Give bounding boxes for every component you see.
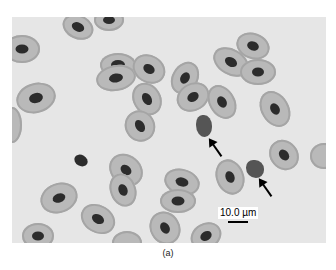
red-blood-cell: [94, 17, 124, 31]
red-blood-cell: [112, 231, 142, 243]
micrograph: 10.0 µm: [12, 17, 326, 243]
red-blood-cell: [22, 223, 54, 243]
red-blood-cell: [12, 107, 22, 143]
red-blood-cell: [75, 198, 120, 240]
red-blood-cell: [12, 35, 40, 63]
red-blood-cell: [211, 155, 250, 198]
free-nucleus: [72, 152, 90, 169]
red-blood-cell: [160, 189, 196, 213]
red-blood-cell: [263, 134, 305, 177]
red-blood-cell: [240, 59, 276, 85]
red-blood-cell: [58, 17, 97, 45]
scale-label: 10.0 µm: [218, 207, 258, 219]
red-blood-cell: [310, 143, 326, 169]
figure-caption: (a): [0, 248, 336, 258]
red-blood-cell: [36, 177, 82, 218]
abnormal-cell: [196, 115, 212, 137]
red-blood-cell: [186, 217, 227, 243]
arrow-icon: [259, 179, 272, 197]
scale-bar: [228, 221, 248, 223]
red-blood-cell: [13, 78, 59, 117]
arrow-icon: [209, 139, 222, 157]
red-blood-cell: [253, 86, 296, 133]
